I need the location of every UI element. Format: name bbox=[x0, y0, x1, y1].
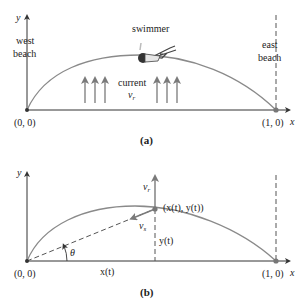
west-beach-label-1: west bbox=[16, 35, 35, 46]
swimmer-path-a bbox=[27, 55, 276, 110]
vs-vector bbox=[133, 209, 155, 218]
x-axis-label-a: x bbox=[289, 116, 295, 127]
end-point-a bbox=[273, 107, 278, 112]
caption-a: (a) bbox=[140, 134, 153, 147]
y-axis-label-b: y bbox=[16, 167, 22, 178]
theta-arc bbox=[64, 246, 67, 261]
origin-label-b: (0, 0) bbox=[14, 268, 36, 280]
current-arrows-right bbox=[157, 80, 177, 103]
swimmer-icon bbox=[138, 43, 176, 63]
point-label: (x(t), y(t)) bbox=[163, 202, 204, 214]
panel-b: y x θ vr vs (x(t), y(t)) y(t) x(t) bbox=[14, 167, 295, 299]
current-label: current bbox=[118, 77, 147, 88]
origin-label-a: (0, 0) bbox=[14, 117, 36, 129]
end-label-a: (1, 0) bbox=[262, 117, 284, 129]
vr-label: vr bbox=[143, 181, 150, 194]
end-label-b: (1, 0) bbox=[262, 268, 284, 280]
origin-point-b bbox=[25, 259, 29, 263]
position-point bbox=[152, 206, 157, 211]
east-beach-label-1: east bbox=[262, 39, 278, 50]
west-beach-label-2: beach bbox=[13, 48, 36, 59]
origin-point-a bbox=[25, 108, 29, 112]
end-point-b bbox=[273, 258, 278, 263]
x-axis-label-b: x bbox=[289, 267, 295, 278]
swimmer-path-b bbox=[27, 206, 276, 261]
panel-a: y x west beach east beach swimmer bbox=[13, 12, 295, 147]
current-arrows-left bbox=[85, 80, 105, 103]
y-axis-label-a: y bbox=[15, 12, 21, 23]
swimmer-diagram: y x west beach east beach swimmer bbox=[0, 0, 299, 305]
caption-b: (b) bbox=[140, 286, 154, 299]
east-beach-label-2: beach bbox=[258, 52, 281, 63]
xt-label: x(t) bbox=[100, 266, 114, 278]
vs-label: vs bbox=[139, 220, 146, 233]
current-symbol: vr bbox=[128, 89, 135, 102]
theta-label: θ bbox=[70, 247, 75, 258]
swimmer-label: swimmer bbox=[132, 23, 170, 34]
yt-label: y(t) bbox=[159, 235, 173, 247]
